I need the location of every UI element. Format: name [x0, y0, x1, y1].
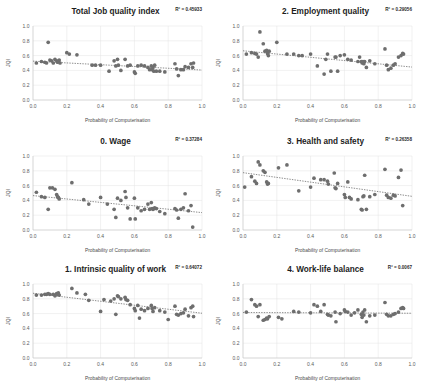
- data-point: [124, 196, 128, 200]
- data-point: [319, 178, 323, 182]
- data-point: [126, 298, 130, 302]
- data-point: [258, 303, 262, 307]
- data-point: [112, 297, 116, 301]
- data-point: [114, 312, 118, 316]
- data-point: [53, 187, 57, 191]
- x-axis-label: Probability of Computerisation: [85, 376, 151, 381]
- data-point: [128, 63, 132, 67]
- data-point: [40, 60, 44, 64]
- data-point: [256, 315, 260, 319]
- data-point: [192, 61, 196, 65]
- data-point: [45, 61, 49, 65]
- y-tick-label: 1.0: [233, 23, 240, 29]
- r-squared-label: R² = 0.26358: [385, 137, 412, 142]
- x-tick-label: 0.6: [341, 103, 348, 109]
- x-tick-label: 0.6: [341, 233, 348, 239]
- x-tick-label: 0.0: [240, 233, 247, 239]
- data-point: [397, 176, 401, 180]
- r-squared-label: R² = 0.0067: [388, 265, 413, 270]
- data-point: [258, 30, 262, 34]
- data-point: [326, 182, 330, 186]
- data-point: [128, 303, 132, 307]
- data-point: [151, 310, 155, 314]
- x-tick-label: 0.0: [30, 103, 37, 109]
- data-point: [46, 40, 50, 44]
- chart-title: 2. Employment quality: [282, 7, 369, 16]
- y-tick-label: 0.4: [23, 67, 30, 73]
- data-point: [243, 185, 247, 189]
- data-point: [43, 196, 47, 200]
- x-tick-label: 0.4: [97, 233, 104, 239]
- data-point: [84, 293, 88, 297]
- data-point: [356, 198, 360, 202]
- x-tick-label: 0.4: [307, 233, 314, 239]
- x-axis-label: Probability of Computerisation: [295, 376, 361, 381]
- chart-panel-0: 0.00.20.40.60.81.00.00.20.40.60.81.0Prob…: [0, 0, 210, 130]
- data-point: [383, 167, 387, 171]
- y-tick-label: 0.8: [23, 296, 30, 302]
- y-axis-label: JQI: [6, 317, 11, 325]
- data-point: [75, 291, 79, 295]
- y-tick-label: 0.4: [23, 325, 30, 331]
- data-point: [393, 194, 397, 198]
- data-point: [133, 196, 137, 200]
- y-tick-label: 0.4: [233, 325, 240, 331]
- data-point: [267, 49, 271, 53]
- data-point: [163, 310, 167, 314]
- data-point: [149, 201, 153, 205]
- data-point: [139, 209, 143, 213]
- y-tick-label: 0.8: [233, 38, 240, 44]
- data-point: [280, 317, 284, 321]
- y-tick-label: 0.0: [233, 355, 240, 361]
- data-point: [58, 61, 62, 65]
- y-tick-label: 0.2: [233, 82, 240, 88]
- y-tick-label: 0.2: [233, 212, 240, 218]
- y-tick-label: 0.0: [233, 97, 240, 103]
- chart-panel-5: 0.00.20.40.60.81.00.00.20.40.60.81.0Prob…: [210, 258, 421, 391]
- x-tick-label: 0.6: [341, 361, 348, 367]
- data-point: [82, 198, 86, 202]
- data-point: [90, 63, 94, 67]
- data-point: [191, 66, 195, 70]
- data-point: [35, 293, 39, 297]
- data-point: [183, 192, 187, 196]
- y-tick-label: 1.0: [23, 23, 30, 29]
- x-tick-label: 0.8: [375, 103, 382, 109]
- x-tick-label: 0.2: [63, 233, 70, 239]
- data-point: [123, 57, 127, 61]
- data-point: [358, 55, 362, 59]
- data-point: [133, 217, 137, 221]
- data-point: [163, 70, 167, 74]
- x-tick-label: 1.0: [409, 361, 416, 367]
- data-point: [349, 197, 353, 201]
- data-point: [250, 298, 254, 302]
- data-point: [362, 194, 366, 198]
- data-point: [191, 304, 195, 308]
- data-point: [75, 53, 79, 57]
- data-point: [40, 195, 44, 199]
- data-point: [102, 298, 106, 302]
- y-tick-label: 0.6: [23, 183, 30, 189]
- x-axis-label: Probability of Computerisation: [85, 248, 151, 253]
- data-point: [99, 63, 103, 67]
- x-axis-label: Probability of Computerisation: [295, 248, 361, 253]
- data-point: [139, 63, 143, 67]
- data-point: [99, 196, 103, 200]
- data-point: [393, 62, 397, 66]
- data-point: [187, 66, 191, 70]
- x-tick-label: 0.6: [131, 361, 138, 367]
- x-tick-label: 0.8: [375, 233, 382, 239]
- data-point: [133, 309, 137, 313]
- y-axis-label: JQI: [216, 189, 221, 197]
- data-point: [112, 59, 116, 63]
- data-point: [373, 62, 377, 66]
- y-tick-label: 0.6: [23, 53, 30, 59]
- data-point: [309, 185, 313, 189]
- data-point: [182, 311, 186, 315]
- data-point: [139, 307, 143, 311]
- data-point: [158, 210, 162, 214]
- data-point: [360, 208, 364, 212]
- y-tick-label: 0.6: [233, 53, 240, 59]
- data-point: [383, 47, 387, 51]
- data-point: [133, 72, 137, 76]
